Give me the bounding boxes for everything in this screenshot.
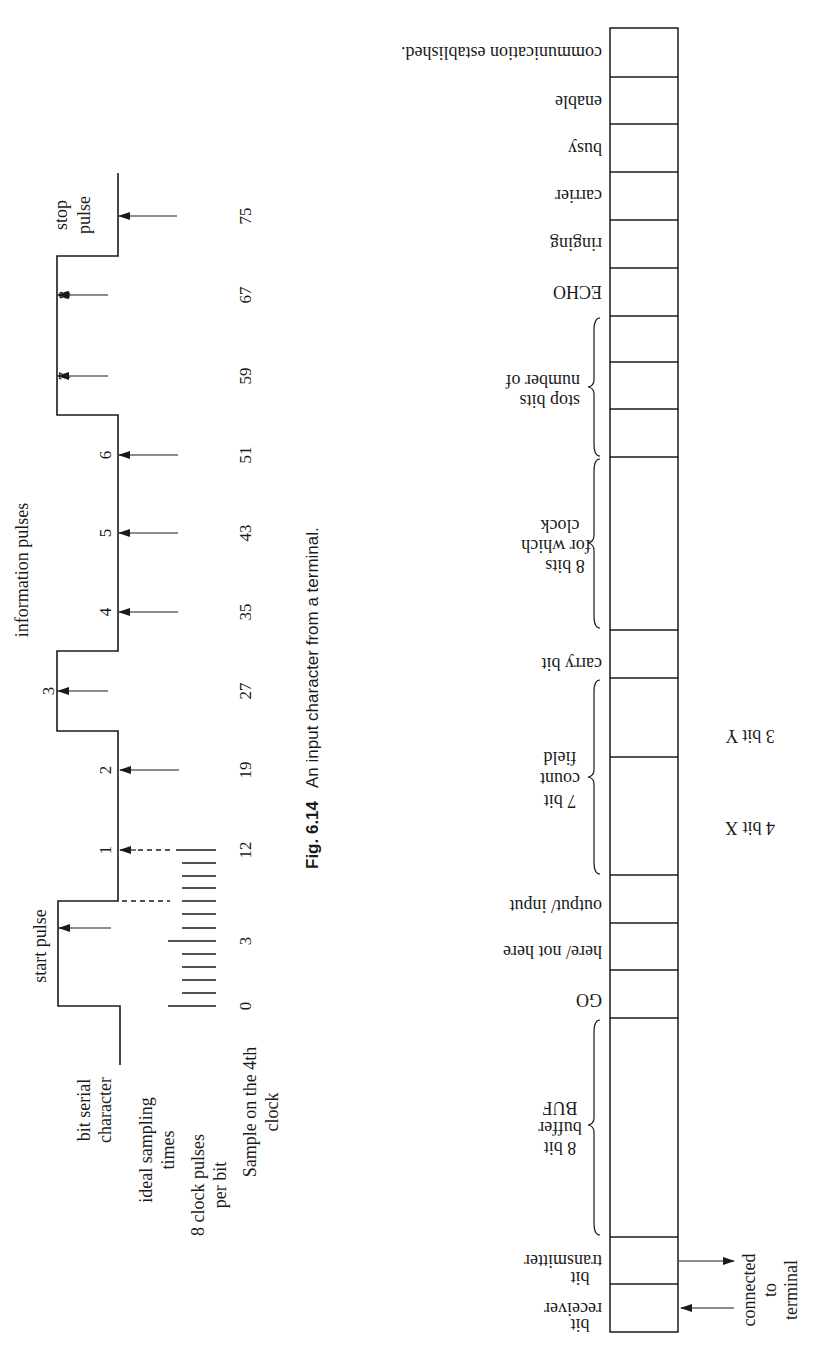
- group-count-field-2: count: [540, 769, 580, 789]
- field-communication-established: communication established.: [401, 43, 602, 63]
- bit-label-5: 5: [96, 529, 115, 538]
- field-go: GO: [576, 990, 602, 1010]
- field-transmitter-bit-2: bit: [570, 1268, 589, 1288]
- figure-caption: Fig. 6.14 An input character from a term…: [303, 527, 322, 869]
- group-stop-bits-1: number of: [506, 371, 580, 391]
- figure-page: 8 7 6 5 4 3 2 1 75 67 59 51 43 35 27 19 …: [0, 0, 830, 1345]
- terminal-label-2: to: [760, 1283, 780, 1297]
- sample-start: 3: [236, 937, 255, 946]
- bit-label-3: 3: [39, 687, 58, 696]
- row-label-ideal-sampling-2: times: [158, 1131, 178, 1170]
- row-label-sample-clock-2: clock: [262, 1093, 282, 1132]
- status-register: communication established. enable busy c…: [401, 28, 801, 1335]
- clock-origin: 0: [236, 1002, 255, 1011]
- row-label-clock-pulses-1: 8 clock pulses: [188, 1134, 208, 1236]
- field-ringing: ringing: [550, 234, 602, 254]
- waveform-trace: [57, 173, 120, 1065]
- bit-label-6: 6: [96, 451, 115, 460]
- group-buffer-2: buffer: [538, 1118, 582, 1138]
- sample-bit1: 12: [236, 842, 255, 859]
- sample-bit3: 27: [236, 682, 255, 700]
- field-carry-bit: carry bit: [542, 654, 602, 674]
- clock-ticks: [168, 850, 216, 1006]
- serial-waveform: 8 7 6 5 4 3 2 1 75 67 59 51 43 35 27 19 …: [12, 173, 282, 1236]
- caption-figure-number: Fig. 6.14: [303, 800, 322, 869]
- group-stop-bits-2: stop bits: [519, 391, 580, 411]
- row-label-bit-serial-2: character: [95, 1077, 115, 1143]
- register-outline: [610, 28, 678, 1332]
- row-label-bit-serial-1: bit serial: [74, 1079, 94, 1141]
- brace-stop-bits: [588, 318, 600, 456]
- terminal-label-3: terminal: [781, 1260, 801, 1320]
- sample-bit2: 19: [236, 762, 255, 779]
- sample-bit5: 43: [236, 525, 255, 542]
- bit-label-1: 1: [96, 846, 115, 855]
- caption-text: An input character from a terminal.: [303, 527, 322, 788]
- field-receiver-bit-2: bit: [570, 1315, 589, 1335]
- row-label-clock-pulses-2: per bit: [210, 1162, 230, 1209]
- bit-label-8: 8: [55, 291, 74, 300]
- field-output-input: output/ input: [509, 896, 602, 916]
- subfield-4bit-x: 4 bit X: [725, 818, 775, 838]
- sample-bit8: 67: [236, 286, 255, 304]
- field-carrier: carrier: [555, 186, 602, 206]
- group-buffer-3: 8 bit: [544, 1138, 577, 1158]
- bit-label-7: 7: [55, 371, 74, 380]
- sample-stop: 75: [236, 208, 255, 225]
- sample-bit6: 51: [236, 447, 255, 464]
- group-count-field-1: field: [544, 748, 577, 768]
- stop-pulse-label-line1: stop: [51, 200, 71, 230]
- field-here-not-here: here/ not here: [503, 942, 602, 962]
- information-pulses-label: information pulses: [12, 503, 32, 637]
- register-braces: [588, 318, 600, 1235]
- stop-pulse-label-line2: pulse: [74, 196, 94, 234]
- group-clock-bits-1: clock: [541, 516, 580, 536]
- row-label-ideal-sampling-1: ideal sampling: [136, 1097, 156, 1202]
- subfield-3bit-y: 3 bit Y: [725, 726, 774, 746]
- group-clock-bits-3: 8 bits: [545, 556, 585, 576]
- group-count-field-3: 7 bit: [544, 791, 577, 811]
- sample-bit4: 35: [236, 604, 255, 621]
- field-echo: ECHO: [553, 282, 602, 302]
- brace-count-field: [588, 680, 600, 874]
- bit-label-2: 2: [96, 766, 115, 775]
- start-pulse-label: start pulse: [30, 909, 50, 983]
- brace-buffer: [588, 1020, 600, 1235]
- field-enable: enable: [555, 92, 602, 112]
- register-dividers: [610, 77, 678, 1284]
- bit-label-4: 4: [96, 607, 115, 616]
- row-label-sample-clock-1: Sample on the 4th: [240, 1047, 260, 1177]
- field-transmitter-bit-1: transmitter: [524, 1251, 602, 1271]
- group-buffer-1: BUF: [542, 1098, 577, 1118]
- field-busy: busy: [568, 139, 602, 159]
- group-clock-bits-2: for which: [521, 536, 590, 556]
- sample-bit7: 59: [236, 368, 255, 385]
- terminal-label-1: connected: [739, 1254, 759, 1327]
